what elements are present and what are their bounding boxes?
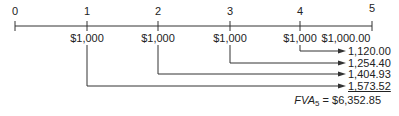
payment-2: $1,000 xyxy=(141,32,175,44)
payment-1: $1,000 xyxy=(70,32,104,44)
fva-value: $6,352.85 xyxy=(332,94,381,106)
payment-5: $1,000.00 xyxy=(322,32,371,44)
period-2-label: 2 xyxy=(155,5,161,17)
equals-sign: = xyxy=(320,94,333,106)
payment-3: $1,000 xyxy=(213,32,247,44)
future-value-2: 1,404.93 xyxy=(348,68,391,80)
future-value-1: 1,573.52 xyxy=(348,80,391,92)
fva-label: FVA xyxy=(294,94,315,106)
total-future-value: FVA5 = $6,352.85 xyxy=(294,94,381,110)
payment-4: $1,000 xyxy=(283,32,317,44)
period-1-label: 1 xyxy=(84,5,90,17)
future-value-4: 1,120.00 xyxy=(348,45,391,57)
period-5-label: 5 xyxy=(369,2,375,14)
period-4-label: 4 xyxy=(297,5,303,17)
period-0-label: 0 xyxy=(12,5,18,17)
period-3-label: 3 xyxy=(227,5,233,17)
